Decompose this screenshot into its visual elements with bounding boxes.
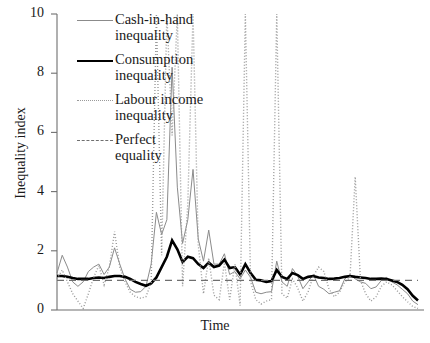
legend-label: Cash-in-hand inequality	[115, 12, 193, 43]
legend-label: Perfect equality	[115, 132, 162, 163]
legend-item: Cash-in-hand inequality	[75, 12, 203, 43]
dotted-gray-line-icon	[75, 92, 115, 109]
y-tick-marks	[51, 14, 57, 310]
y-tick-label: 0	[18, 301, 44, 317]
y-tick-label: 6	[18, 123, 44, 139]
inequality-index-chart: Inequality index Time 0246810 Cash-in-ha…	[0, 0, 430, 343]
legend-item: Perfect equality	[75, 132, 203, 163]
y-tick-label: 4	[18, 183, 44, 199]
x-axis-label: Time	[0, 318, 430, 334]
legend-label: Labour income inequality	[115, 92, 203, 123]
solid-thick-black-line-icon	[75, 52, 115, 69]
plot-area	[0, 0, 430, 343]
chart-legend: Cash-in-hand inequalityConsumption inequ…	[75, 12, 203, 172]
legend-item: Consumption inequality	[75, 52, 203, 83]
y-tick-label: 8	[18, 64, 44, 80]
y-axis-label: Inequality index	[13, 53, 29, 253]
legend-item: Labour income inequality	[75, 92, 203, 123]
y-tick-label: 10	[18, 5, 44, 21]
legend-label: Consumption inequality	[115, 52, 193, 83]
y-tick-label: 2	[18, 242, 44, 258]
solid-thin-gray-line-icon	[75, 12, 115, 29]
series-line	[57, 240, 418, 300]
dashed-gray-line-icon	[75, 132, 115, 149]
